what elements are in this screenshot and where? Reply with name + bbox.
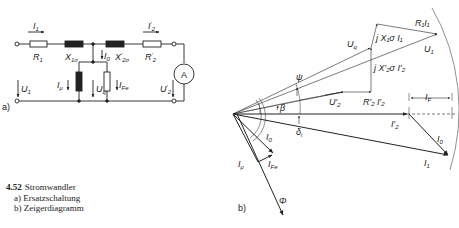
- ammeter-label: A: [181, 70, 187, 80]
- panel-label-a: a): [2, 102, 10, 112]
- label-if: IF: [425, 92, 432, 103]
- label-i2-phasor: I′2: [391, 119, 399, 130]
- caption-b: b) Zeigerdiagramm: [14, 203, 84, 213]
- label-imu: Iμ: [57, 80, 64, 91]
- label-i0: I0: [104, 51, 111, 62]
- label-uq-phasor: Uq: [347, 39, 358, 50]
- figure-canvas: R1 X1σ X′2σ R′2 A I1 I′2 I0 Iμ IFe U1 Uq…: [0, 0, 459, 228]
- resistor-r2: [143, 41, 161, 47]
- label-i0-tip: I0: [437, 134, 444, 145]
- figure-caption: 4.52Stromwandler a) Ersatzschaltung b) Z…: [6, 182, 84, 213]
- inductor-xmu: [76, 72, 82, 91]
- label-phi: Φ: [279, 196, 287, 206]
- label-ife-phasor: IFe: [268, 159, 278, 170]
- label-r2: R′2: [145, 52, 157, 63]
- label-psi: ψ: [296, 72, 303, 82]
- panel-label-b: b): [238, 203, 246, 213]
- label-u2-phasor: U′2: [329, 97, 341, 108]
- label-u2: U′2: [160, 84, 172, 95]
- label-i0-origin: I0: [266, 132, 273, 143]
- label-beta: β: [279, 103, 285, 113]
- phasor-diagram: [233, 8, 459, 215]
- label-ife: IFe: [119, 80, 129, 91]
- label-x1s: X1σ: [64, 52, 78, 63]
- label-i1-phasor: I1: [424, 158, 430, 169]
- label-delta: δi: [296, 127, 303, 138]
- label-x2s: X′2σ: [114, 52, 129, 63]
- label-imu-phasor: Iμ: [238, 159, 245, 170]
- inductor-x1s: [65, 41, 83, 47]
- caption-title: 4.52Stromwandler: [6, 182, 76, 192]
- label-r2i2: R′₂ I′₂: [363, 97, 385, 107]
- label-i2: I′2: [148, 21, 156, 32]
- label-r1i1: R₁I₁: [415, 18, 430, 28]
- resistor-r1: [30, 41, 47, 47]
- label-r1: R1: [33, 52, 43, 63]
- inductor-x2s: [106, 41, 124, 47]
- label-jx1i1: j X₁σ I₁: [375, 33, 403, 43]
- label-u1-phasor: U1: [424, 44, 434, 55]
- label-jx2i2: j X′₂σ I′₂: [373, 63, 406, 73]
- label-u1: U1: [21, 84, 31, 95]
- label-i1: I1: [33, 21, 39, 32]
- circuit-labels: R1 X1σ X′2σ R′2 A I1 I′2 I0 Iμ IFe U1 Uq…: [2, 21, 187, 112]
- caption-a: a) Ersatzschaltung: [14, 193, 81, 203]
